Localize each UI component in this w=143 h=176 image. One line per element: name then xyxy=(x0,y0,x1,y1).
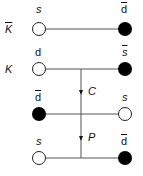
quark-label: d xyxy=(35,47,41,58)
quark-label: s xyxy=(122,92,128,103)
operation-label-c: C xyxy=(88,86,96,97)
antiquark-filled-circle xyxy=(32,107,46,121)
antiquark-filled-circle xyxy=(118,22,132,36)
quark-open-circle xyxy=(33,152,46,165)
antiquark-filled-circle xyxy=(118,62,132,76)
quark-label: d xyxy=(35,92,41,103)
antiquark-filled-circle xyxy=(118,151,132,165)
quark-open-circle xyxy=(33,63,46,76)
quark-label: s xyxy=(36,4,42,15)
operation-label-p: P xyxy=(88,132,95,143)
diagram-canvas xyxy=(0,0,143,176)
meson-label-kbar: K xyxy=(5,24,12,35)
quark-open-circle xyxy=(119,108,132,121)
arrow-c-icon xyxy=(79,90,83,95)
quark-label: s xyxy=(122,47,128,58)
quark-label: s xyxy=(36,136,42,147)
meson-label-k: K xyxy=(5,64,12,75)
quark-label: d xyxy=(121,136,127,147)
arrow-p-icon xyxy=(79,136,83,141)
quark-open-circle xyxy=(33,23,46,36)
quark-label: d xyxy=(121,4,127,15)
